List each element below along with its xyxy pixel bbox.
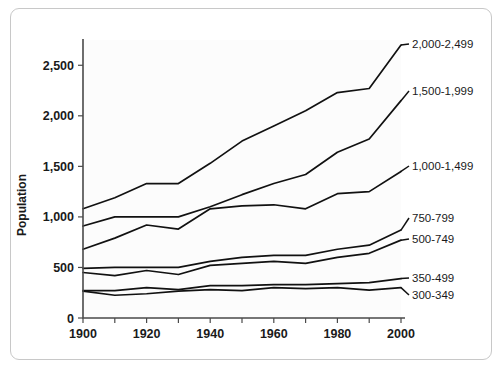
series-label-1: 1,500-1,999 xyxy=(412,85,473,97)
plot-background xyxy=(83,40,401,318)
series-label-3: 750-799 xyxy=(412,212,454,224)
x-tick-label: 1900 xyxy=(69,327,97,341)
x-tick-label: 2000 xyxy=(387,327,415,341)
y-tick-label: 1,500 xyxy=(43,160,74,174)
series-label-0: 2,000-2,499 xyxy=(412,38,473,50)
chart-figure: 05001,0001,5002,0002,500 190019201940196… xyxy=(0,0,502,369)
x-tick-label: 1980 xyxy=(323,327,351,341)
series-leader-4 xyxy=(401,239,409,240)
x-tick-label: 1940 xyxy=(196,327,224,341)
series-leader-0 xyxy=(401,44,409,45)
y-tick-label: 0 xyxy=(67,312,74,326)
series-leader-1 xyxy=(401,91,409,101)
series-leader-3 xyxy=(401,218,409,230)
y-tick-label: 2,500 xyxy=(43,59,74,73)
series-leader-2 xyxy=(401,166,409,171)
y-tick-label: 2,000 xyxy=(43,109,74,123)
series-label-2: 1,000-1,499 xyxy=(412,160,473,172)
y-tick-label: 1,000 xyxy=(43,210,74,224)
series-label-5: 350-499 xyxy=(412,272,454,284)
series-labels: 2,000-2,4991,500-1,9991,000-1,499750-799… xyxy=(401,38,473,301)
x-tick-label: 1960 xyxy=(260,327,288,341)
series-label-6: 300-349 xyxy=(412,289,454,301)
x-axis-tick-labels: 190019201940196019802000 xyxy=(69,327,415,341)
y-tick-label: 500 xyxy=(53,261,74,275)
y-axis-title: Population xyxy=(15,174,29,236)
y-axis-tick-labels: 05001,0001,5002,0002,500 xyxy=(43,59,74,326)
series-leader-5 xyxy=(401,278,409,279)
series-label-4: 500-749 xyxy=(412,233,454,245)
x-tick-label: 1920 xyxy=(133,327,161,341)
series-leader-6 xyxy=(401,288,409,295)
line-chart: 05001,0001,5002,0002,500 190019201940196… xyxy=(0,0,502,369)
